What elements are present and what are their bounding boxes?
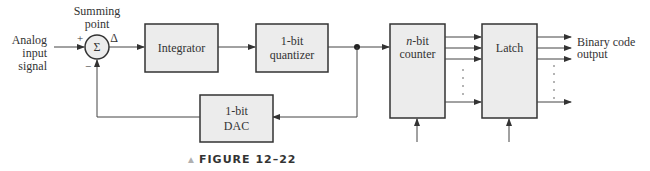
integrator-block: Integrator (145, 24, 218, 72)
svg-text:n-bit: n-bit (406, 34, 429, 48)
svg-text:1-bit: 1-bit (225, 104, 248, 118)
svg-text:signal: signal (18, 59, 47, 73)
sigma-symbol: Σ (94, 40, 101, 54)
delta-sigma-diagram: Analog input signal Summing point Σ + − … (0, 0, 650, 171)
svg-text:output: output (577, 47, 608, 61)
svg-text:point: point (85, 17, 110, 31)
latch-output-bus (537, 37, 571, 102)
dac-block: 1-bit DAC (200, 95, 273, 142)
figure-caption: FIGURE 12–22 (199, 153, 297, 166)
svg-text:Latch: Latch (496, 41, 523, 55)
delta-label: Δ (110, 31, 118, 45)
binary-output-label: Binary code output (577, 35, 635, 61)
caption-marker-icon: ▲ (186, 154, 196, 165)
counter-block: n-bit counter (390, 24, 445, 118)
svg-text:quantizer: quantizer (270, 48, 315, 62)
latch-block: Latch (482, 24, 537, 118)
plus-sign: + (77, 32, 83, 44)
analog-input-label: Analog input signal (12, 33, 48, 73)
bus-ellipsis-dots-2 (553, 65, 555, 99)
svg-text:Analog: Analog (12, 33, 47, 47)
quantizer-block: 1-bit quantizer (256, 24, 328, 72)
svg-text:Integrator: Integrator (158, 41, 205, 55)
svg-text:1-bit: 1-bit (281, 34, 304, 48)
svg-text:input: input (22, 46, 47, 60)
summing-point-caption: Summing point (74, 4, 121, 31)
svg-text:DAC: DAC (224, 119, 249, 133)
svg-text:Summing: Summing (74, 4, 121, 18)
minus-sign: − (85, 60, 91, 72)
svg-text:counter: counter (400, 47, 436, 61)
bus-ellipsis-dots-1 (462, 69, 464, 95)
